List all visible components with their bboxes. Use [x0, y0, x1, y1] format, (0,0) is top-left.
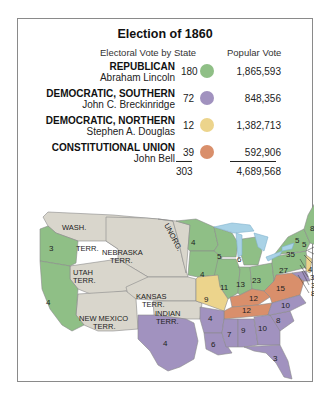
- svg-text:7: 7: [227, 330, 232, 339]
- svg-text:8: 8: [310, 224, 314, 233]
- lake-michigan: [236, 233, 242, 257]
- svg-text:6: 6: [211, 340, 216, 349]
- us-map: WASH. TERR. NEBRASKA TERR. UNORG. UTAH T…: [18, 19, 314, 383]
- svg-text:4: 4: [208, 314, 213, 323]
- svg-text:9: 9: [241, 326, 246, 335]
- svg-text:3: 3: [49, 244, 54, 253]
- wash-territory-label: WASH.: [62, 223, 86, 232]
- svg-text:11: 11: [220, 283, 229, 292]
- indian-terr-label: TERR.: [156, 317, 179, 326]
- svg-text:23: 23: [252, 276, 261, 285]
- svg-text:13: 13: [236, 280, 245, 289]
- svg-text:4: 4: [191, 238, 196, 247]
- svg-text:12: 12: [242, 306, 251, 315]
- svg-text:12: 12: [249, 294, 258, 303]
- svg-text:15: 15: [276, 284, 285, 293]
- svg-text:27: 27: [279, 266, 288, 275]
- svg-text:5: 5: [217, 252, 222, 261]
- svg-text:8: 8: [276, 316, 281, 325]
- svg-text:35: 35: [286, 250, 295, 259]
- svg-text:5: 5: [302, 240, 307, 249]
- florida: [244, 345, 292, 379]
- utah-terr-label: TERR.: [73, 276, 96, 285]
- svg-text:4: 4: [46, 298, 51, 307]
- svg-text:10: 10: [258, 324, 267, 333]
- svg-text:5: 5: [295, 236, 300, 245]
- svg-text:8: 8: [311, 289, 314, 298]
- kansas-terr-label: TERR.: [142, 300, 165, 309]
- svg-text:6: 6: [237, 255, 242, 264]
- election-map-figure: Election of 1860 Electoral Vote by State…: [17, 18, 313, 382]
- nebraska-terr-label: TERR.: [110, 256, 133, 265]
- svg-text:9: 9: [204, 295, 209, 304]
- wash-terr-label: TERR.: [76, 244, 99, 253]
- svg-text:4: 4: [163, 339, 168, 348]
- svg-text:3: 3: [273, 354, 278, 363]
- svg-text:10: 10: [281, 301, 290, 310]
- new-mexico-terr-label: TERR.: [93, 322, 116, 331]
- svg-text:4: 4: [200, 270, 205, 279]
